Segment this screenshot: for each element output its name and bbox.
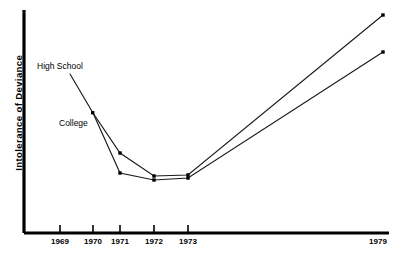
- x-tick-label-1972: 1972: [145, 238, 163, 246]
- series-line-high-school: [70, 15, 383, 176]
- data-point-high-school-1971: [118, 151, 121, 154]
- series-line-college: [93, 52, 383, 180]
- data-point-college-1973: [186, 176, 189, 179]
- data-point-college-1972: [152, 178, 155, 181]
- x-tick-label-1969: 1969: [51, 238, 69, 246]
- series-label-high-school: High School: [37, 62, 83, 71]
- data-point-college-1979: [381, 50, 384, 53]
- data-point-high-school-1973: [186, 173, 189, 176]
- line-chart: Intolerance of Deviance High School Coll…: [0, 0, 395, 265]
- plot-area: [0, 0, 395, 265]
- series-label-college: College: [59, 119, 88, 128]
- y-axis-title: Intolerance of Deviance: [14, 28, 24, 198]
- data-point-high-school-1972: [152, 174, 155, 177]
- x-tick-label-1973: 1973: [179, 238, 197, 246]
- series-markers-college: [118, 50, 384, 181]
- x-tick-label-1971: 1971: [111, 238, 129, 246]
- x-tick-label-1970: 1970: [84, 238, 102, 246]
- x-tick-label-1979: 1979: [369, 238, 387, 246]
- data-point-high-school-1970: [91, 111, 94, 114]
- data-point-college-1971: [118, 171, 121, 174]
- series-markers-high-school: [91, 13, 385, 177]
- data-point-high-school-1979: [381, 13, 384, 16]
